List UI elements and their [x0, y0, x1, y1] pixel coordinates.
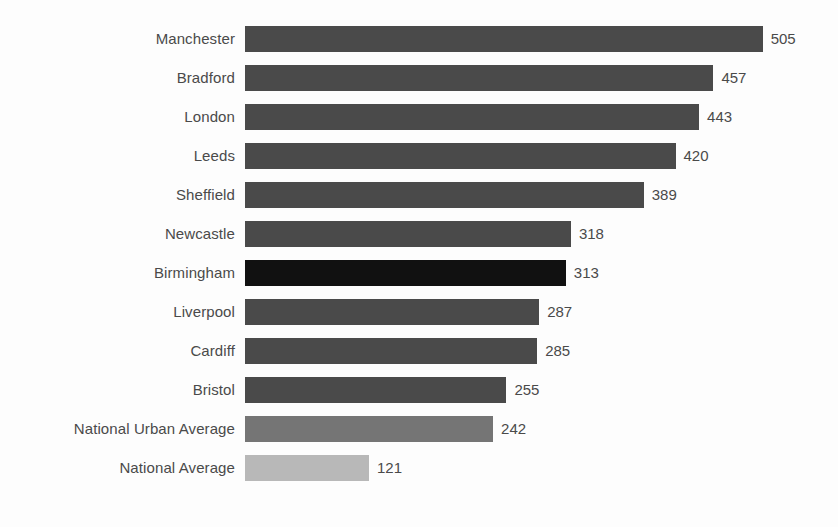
bar-dark: [245, 338, 537, 364]
bar-category-label: National Urban Average: [74, 416, 235, 442]
bar-value-label: 443: [707, 104, 732, 130]
bar-mid: [245, 416, 493, 442]
bar-light: [245, 455, 369, 481]
bar-row: Manchester505: [0, 26, 838, 65]
bar-value-label: 457: [721, 65, 746, 91]
bar-category-label: Newcastle: [165, 221, 235, 247]
bar-category-label: Liverpool: [173, 299, 235, 325]
bar-row: Liverpool287: [0, 299, 838, 338]
bar-row: Sheffield389: [0, 182, 838, 221]
bar-value-label: 318: [579, 221, 604, 247]
bar-dark: [245, 221, 571, 247]
bar-value-label: 420: [684, 143, 709, 169]
bar-value-label: 313: [574, 260, 599, 286]
bar-track: 285: [245, 338, 838, 364]
bar-dark: [245, 26, 763, 52]
bar-value-label: 121: [377, 455, 402, 481]
bar-row: Bristol255: [0, 377, 838, 416]
bar-value-label: 287: [547, 299, 572, 325]
bar-row: London443: [0, 104, 838, 143]
bar-value-label: 505: [771, 26, 796, 52]
bar-dark: [245, 377, 506, 403]
bar-value-label: 285: [545, 338, 570, 364]
bar-track: 255: [245, 377, 838, 403]
bar-track: 121: [245, 455, 838, 481]
bar-row: Cardiff285: [0, 338, 838, 377]
bar-category-label: Bradford: [177, 65, 235, 91]
bar-track: 313: [245, 260, 838, 286]
bar-row: National Average121: [0, 455, 838, 494]
bar-dark: [245, 299, 539, 325]
bar-dark: [245, 143, 676, 169]
bar-category-label: Birmingham: [154, 260, 235, 286]
bar-chart: Manchester505Bradford457London443Leeds42…: [0, 0, 838, 527]
bar-track: 457: [245, 65, 838, 91]
bar-highlight: [245, 260, 566, 286]
bar-category-label: National Average: [119, 455, 235, 481]
bar-category-label: London: [184, 104, 235, 130]
bar-category-label: Bristol: [193, 377, 235, 403]
bar-dark: [245, 104, 699, 130]
bar-track: 420: [245, 143, 838, 169]
bar-track: 389: [245, 182, 838, 208]
bar-row: Birmingham313: [0, 260, 838, 299]
chart-plot-area: Manchester505Bradford457London443Leeds42…: [0, 26, 838, 506]
bar-track: 287: [245, 299, 838, 325]
bar-track: 318: [245, 221, 838, 247]
bar-track: 505: [245, 26, 838, 52]
bar-dark: [245, 182, 644, 208]
bar-category-label: Cardiff: [190, 338, 235, 364]
bar-category-label: Sheffield: [176, 182, 235, 208]
bar-value-label: 255: [514, 377, 539, 403]
bar-track: 242: [245, 416, 838, 442]
bar-dark: [245, 65, 713, 91]
bar-row: Newcastle318: [0, 221, 838, 260]
bar-row: Leeds420: [0, 143, 838, 182]
bar-value-label: 242: [501, 416, 526, 442]
bar-category-label: Manchester: [156, 26, 235, 52]
bar-category-label: Leeds: [194, 143, 235, 169]
bar-track: 443: [245, 104, 838, 130]
bar-row: National Urban Average242: [0, 416, 838, 455]
bar-row: Bradford457: [0, 65, 838, 104]
bar-value-label: 389: [652, 182, 677, 208]
